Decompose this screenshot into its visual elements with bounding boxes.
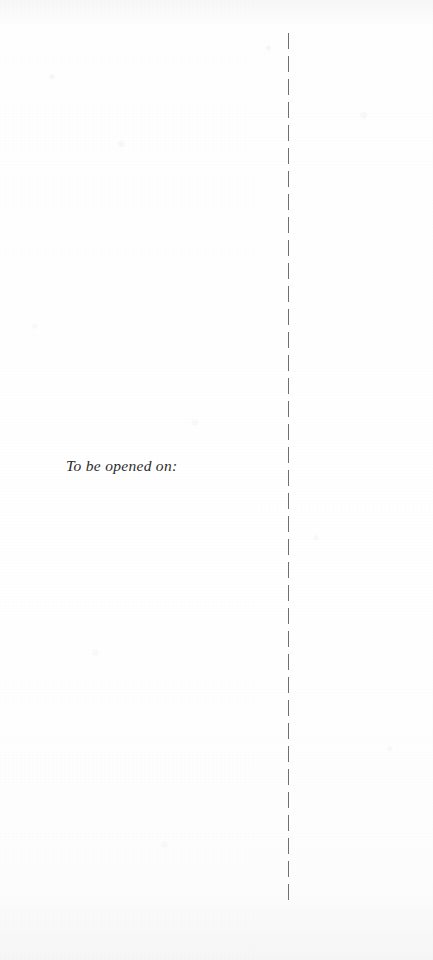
card-page: To be opened on: [0,0,433,960]
card-right-panel [289,0,433,960]
to-be-opened-on-label: To be opened on: [66,456,177,476]
